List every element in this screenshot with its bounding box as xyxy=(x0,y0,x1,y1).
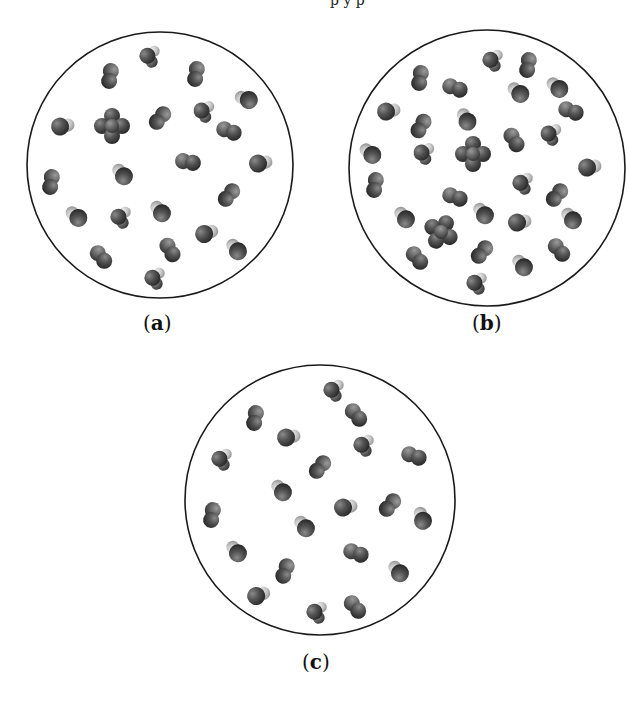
molecule-hetero3 xyxy=(142,266,169,293)
molecule-hetero xyxy=(376,100,402,122)
molecule-diatomic xyxy=(186,60,206,88)
molecule-diatomic xyxy=(543,180,572,210)
molecule-diatomic xyxy=(399,444,429,468)
molecule-hetero xyxy=(508,250,537,280)
panel-caption-b: (b) xyxy=(472,311,502,335)
molecule-hetero3 xyxy=(209,447,236,474)
molecule-hetero xyxy=(232,87,260,112)
molecule-hetero3 xyxy=(108,205,135,232)
molecule-hetero3 xyxy=(539,122,565,148)
molecule-hetero xyxy=(452,105,479,134)
molecule-diatomic xyxy=(273,556,297,586)
molecule-diatomic xyxy=(376,490,405,520)
molecule-hetero3 xyxy=(464,271,491,298)
molecule-diatomic xyxy=(556,99,586,123)
molecule-diatomic xyxy=(341,541,371,565)
molecule-diatomic xyxy=(518,51,538,79)
molecule-hetero xyxy=(193,221,221,246)
molecule-diatomic xyxy=(501,125,528,156)
molecule-hetero xyxy=(222,234,251,264)
molecule-tetra xyxy=(94,108,130,144)
panel-caption-c: (c) xyxy=(302,650,330,674)
molecule-hetero xyxy=(507,211,533,233)
molecule-hetero xyxy=(390,202,419,232)
molecule-hetero xyxy=(469,198,498,228)
molecule-diatomic xyxy=(174,152,202,172)
molecule-diatomic xyxy=(306,452,335,482)
molecule-hetero xyxy=(503,78,533,107)
molecule-tetra xyxy=(416,207,465,256)
molecule-diagram xyxy=(0,0,629,712)
molecule-hetero xyxy=(290,511,319,541)
panel-a xyxy=(27,32,293,298)
molecule-hetero3 xyxy=(510,171,537,198)
molecule-hetero xyxy=(267,475,296,505)
panel-c xyxy=(185,365,455,635)
molecule-hetero xyxy=(410,504,435,532)
molecule-hetero3 xyxy=(412,141,438,167)
molecule-diatomic xyxy=(410,64,430,92)
molecule-hetero xyxy=(245,583,273,608)
molecule-hetero xyxy=(542,73,572,102)
container-circle xyxy=(185,365,455,635)
molecule-diatomic xyxy=(202,501,222,529)
molecule-hetero xyxy=(61,202,91,231)
molecule-diatomic xyxy=(408,111,435,142)
molecule-hetero3 xyxy=(321,378,348,405)
molecule-diatomic xyxy=(341,592,370,622)
molecule-hetero3 xyxy=(137,44,164,71)
molecule-hetero xyxy=(146,196,175,226)
molecule-hetero xyxy=(248,152,274,174)
molecule-diatomic xyxy=(100,62,120,90)
molecule-hetero xyxy=(577,156,603,178)
molecule-diatomic xyxy=(215,180,244,210)
molecule-hetero xyxy=(222,536,251,566)
molecule-diatomic xyxy=(214,119,244,143)
molecule-diatomic xyxy=(403,243,432,273)
molecule-diatomic xyxy=(157,235,184,266)
molecule-hetero xyxy=(355,139,385,168)
panel-caption-a: (a) xyxy=(143,311,172,335)
molecule-diatomic xyxy=(468,237,497,267)
molecule-diatomic xyxy=(342,400,371,430)
molecule-diatomic xyxy=(545,235,574,265)
molecule-hetero xyxy=(384,556,413,586)
molecule-hetero3 xyxy=(304,600,331,627)
molecule-diatomic xyxy=(41,168,61,196)
molecule-hetero xyxy=(333,496,359,518)
molecule-hetero3 xyxy=(480,48,507,75)
molecule-diatomic xyxy=(365,171,385,199)
molecule-diatomic xyxy=(440,76,470,100)
molecule-tetra xyxy=(455,136,491,172)
molecule-hetero xyxy=(108,159,137,189)
molecule-diatomic xyxy=(245,404,265,432)
molecule-diatomic xyxy=(146,103,175,133)
molecule-diatomic xyxy=(87,242,116,272)
molecule-diatomic xyxy=(440,185,470,209)
molecule-hetero xyxy=(557,203,586,233)
panel-b xyxy=(349,30,625,306)
molecule-hetero3 xyxy=(351,433,378,460)
molecule-hetero xyxy=(276,426,302,448)
molecule-hetero3 xyxy=(192,99,218,125)
molecule-hetero xyxy=(50,115,76,137)
